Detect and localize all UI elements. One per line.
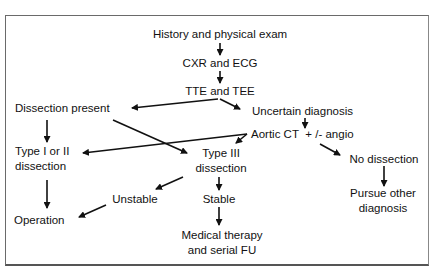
node-cxr-ecg: CXR and ECG bbox=[183, 56, 258, 71]
node-stable: Stable bbox=[203, 192, 236, 207]
arrow-type3-to-unstable bbox=[156, 177, 183, 189]
node-unstable: Unstable bbox=[112, 192, 157, 207]
node-history-physical-exam: History and physical exam bbox=[153, 27, 287, 42]
node-pursue-other-diagnosis: Pursue other diagnosis bbox=[350, 186, 416, 216]
arrow-tte-to-uncertain bbox=[220, 99, 240, 109]
node-type-1-2-dissection: Type I or II dissection bbox=[15, 144, 69, 174]
node-aortic-ct-angio: Aortic CT + /- angio bbox=[251, 127, 354, 142]
arrow-ct-to-nodissection bbox=[320, 144, 340, 155]
node-dissection-present: Dissection present bbox=[15, 101, 110, 116]
node-medical-therapy: Medical therapy and serial FU bbox=[181, 228, 262, 258]
node-no-dissection: No dissection bbox=[349, 152, 418, 167]
node-tte-tee: TTE and TEE bbox=[185, 84, 254, 99]
node-uncertain-diagnosis: Uncertain diagnosis bbox=[252, 104, 353, 119]
node-operation: Operation bbox=[14, 213, 65, 228]
arrow-unstable-to-operation bbox=[79, 205, 106, 217]
arrow-tte-to-dissection bbox=[132, 99, 218, 108]
node-type-3-dissection: Type III dissection bbox=[195, 146, 246, 176]
